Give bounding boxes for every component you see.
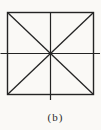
center-point <box>49 52 53 56</box>
figure-panel: (b) <box>0 0 101 130</box>
figure-caption: (b) <box>0 111 101 124</box>
